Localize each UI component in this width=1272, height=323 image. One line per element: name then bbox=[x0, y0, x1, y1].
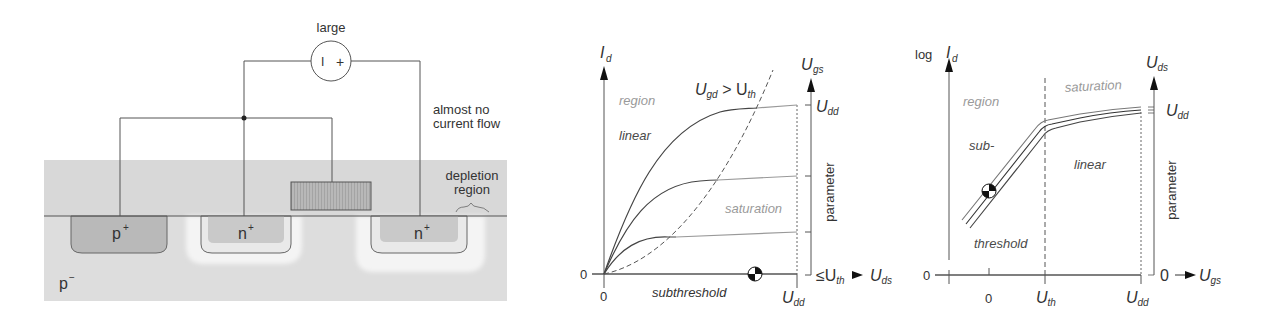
depletion-label-1: depletion bbox=[446, 168, 499, 183]
output-characteristics-chart: I d U gs Ugd > Uth Udd parameter region … bbox=[580, 44, 892, 308]
x-axis-label: Uds bbox=[870, 267, 892, 286]
curve-ugs-mid-sat bbox=[718, 176, 797, 180]
junction-dot bbox=[242, 116, 247, 121]
boundary-label: Ugd > Uth bbox=[695, 81, 756, 100]
n-plus-left-sup: + bbox=[248, 222, 254, 233]
right-tick-udd-label: Udd bbox=[1166, 102, 1189, 121]
p-plus-sup: + bbox=[123, 222, 129, 233]
y-zero-label: 0 bbox=[923, 268, 930, 283]
y-axis-label-sub: d bbox=[606, 53, 612, 64]
region-label: region bbox=[963, 94, 999, 109]
subthreshold-label: subthreshold bbox=[652, 285, 727, 300]
curve-uds-mid bbox=[966, 110, 1141, 224]
saturation-label: saturation bbox=[1064, 77, 1122, 95]
figure-canvas: I + large almost no current flow depleti… bbox=[0, 0, 1272, 323]
right-axis-arrow-icon bbox=[1150, 76, 1158, 90]
parameter-label: parameter bbox=[1164, 160, 1179, 220]
depletion-label-2: region bbox=[454, 182, 490, 197]
source-plus-sign: + bbox=[336, 54, 344, 70]
p-plus-label: p bbox=[112, 225, 121, 242]
x-udd-label: Udd bbox=[1126, 289, 1149, 308]
operating-point-marker-icon bbox=[982, 184, 996, 198]
y-axis-label-sub: d bbox=[952, 53, 958, 64]
x-axis-arrow-icon bbox=[1185, 271, 1196, 279]
mosfet-cross-section: I + large almost no current flow depleti… bbox=[44, 20, 507, 301]
n-plus-right-label: n bbox=[414, 225, 423, 242]
x-axis-label: Ugs bbox=[1199, 267, 1221, 286]
note-line-2: current flow bbox=[433, 116, 501, 131]
parameter-label: parameter bbox=[822, 162, 837, 222]
x-uth-label: Uth bbox=[1036, 289, 1056, 308]
n-plus-right-sup: + bbox=[424, 222, 430, 233]
x-axis-arrow-icon bbox=[852, 271, 863, 279]
voltage-source bbox=[311, 41, 351, 81]
x-udd-label: Udd bbox=[782, 289, 805, 308]
x-zero-label: 0 bbox=[600, 289, 607, 304]
saturation-label: saturation bbox=[725, 201, 782, 216]
y-axis-arrow-icon bbox=[600, 66, 608, 80]
curve-ugs-low-sat bbox=[676, 232, 797, 237]
right-axis-label-sub: gs bbox=[813, 64, 824, 75]
substrate-sup: − bbox=[69, 272, 75, 283]
right-zero-label: 0 bbox=[1160, 267, 1169, 284]
curve-ugs-low-linear bbox=[604, 237, 676, 274]
y-axis-label: I bbox=[600, 44, 605, 61]
x-zero-label: 0 bbox=[985, 291, 992, 306]
y-axis-label: I bbox=[946, 44, 951, 61]
curve-ugs-mid-linear bbox=[604, 180, 718, 274]
right-tick-udd-label: Udd bbox=[816, 98, 839, 117]
linear-label: linear bbox=[619, 128, 651, 143]
threshold-label: threshold bbox=[974, 236, 1028, 251]
operating-point-marker-icon bbox=[748, 267, 762, 281]
right-axis-label: U bbox=[801, 56, 813, 73]
right-zero-label: ≤Uth bbox=[816, 267, 845, 286]
curve-uds-low bbox=[970, 113, 1141, 228]
source-label: large bbox=[317, 20, 346, 35]
curve-ugs-udd-sat bbox=[757, 105, 797, 108]
sub-label: sub- bbox=[969, 138, 995, 153]
log-label: log bbox=[915, 47, 932, 62]
transfer-characteristics-chart: log I d Uds Udd parameter region sub- th… bbox=[915, 44, 1221, 308]
region-label: region bbox=[619, 93, 655, 108]
substrate-label: p bbox=[59, 275, 68, 292]
right-axis-arrow-icon bbox=[807, 78, 815, 92]
source-minus-sign: I bbox=[321, 55, 324, 69]
y-zero-label: 0 bbox=[580, 267, 587, 282]
linear-label: linear bbox=[1074, 157, 1106, 172]
n-plus-left-label: n bbox=[238, 225, 247, 242]
gate-electrode bbox=[291, 182, 371, 210]
note-line-1: almost no bbox=[433, 102, 489, 117]
oxide-layer bbox=[44, 160, 507, 216]
right-axis-label: Uds bbox=[1146, 54, 1168, 73]
